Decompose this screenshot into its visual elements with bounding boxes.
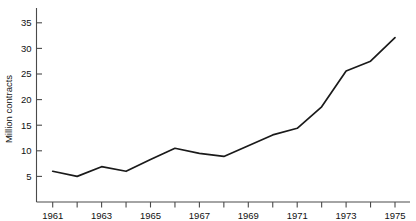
x-axis-tick-label: 1975	[384, 210, 405, 221]
y-axis-tick-label: 20	[21, 94, 32, 105]
y-axis-tick-label: 25	[21, 68, 32, 79]
y-axis-tick-label: 15	[21, 120, 32, 131]
x-axis-tick-label: 1967	[189, 210, 210, 221]
x-axis-tick-label: 1971	[287, 210, 308, 221]
x-axis-tick-label: 1963	[91, 210, 112, 221]
data-series-line	[53, 38, 395, 177]
y-axis-tick-label: 5	[26, 171, 31, 182]
y-axis-tick-label: 35	[21, 17, 32, 28]
x-axis-tick-label: 1965	[140, 210, 161, 221]
x-axis-tick-label: 1969	[238, 210, 259, 221]
y-axis-title: Million contracts	[3, 75, 14, 143]
x-axis-tick-label: 1973	[336, 210, 357, 221]
y-axis-tick-label: 10	[21, 145, 32, 156]
chart-canvas: 5101520253035196119631965196719691971197…	[0, 0, 416, 221]
y-axis-tick-label: 30	[21, 43, 32, 54]
line-chart: 5101520253035196119631965196719691971197…	[0, 0, 416, 221]
x-axis-tick-label: 1961	[42, 210, 63, 221]
